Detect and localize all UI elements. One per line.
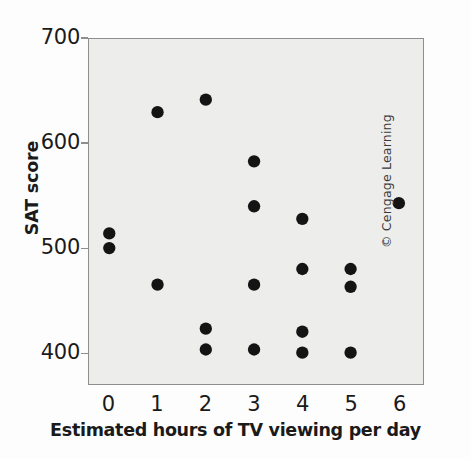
- data-point: [344, 346, 356, 358]
- data-point: [296, 326, 308, 338]
- data-points-layer: [89, 39, 423, 384]
- x-axis-tick-2: 2: [191, 394, 221, 415]
- y-axis-tick-mark: [81, 353, 88, 355]
- x-axis-tick-5: 5: [336, 394, 366, 415]
- data-point: [296, 213, 308, 225]
- data-point: [248, 279, 260, 291]
- data-point: [103, 242, 115, 254]
- x-axis-tick-0: 0: [93, 394, 123, 415]
- data-point: [151, 106, 163, 118]
- data-point: [248, 200, 260, 212]
- x-axis-tick-6: 6: [385, 394, 415, 415]
- x-axis-tick-1: 1: [142, 394, 172, 415]
- copyright-credit: © Cengage Learning: [379, 98, 394, 248]
- data-point: [103, 227, 115, 239]
- x-axis-tick-4: 4: [288, 394, 318, 415]
- y-axis-tick-mark: [81, 37, 88, 39]
- y-axis-tick-700: 700: [16, 27, 80, 48]
- y-axis-tick-mark: [81, 142, 88, 144]
- data-point: [200, 93, 212, 105]
- data-point: [248, 155, 260, 167]
- x-axis-tick-3: 3: [239, 394, 269, 415]
- plot-panel: [88, 38, 424, 385]
- data-point: [296, 263, 308, 275]
- y-axis-title: SAT score: [22, 118, 42, 258]
- data-point: [200, 322, 212, 334]
- data-point: [248, 343, 260, 355]
- scatter-plot-figure: 700600500400 SAT score 0123456 Estimated…: [0, 0, 471, 459]
- data-point: [200, 343, 212, 355]
- data-point: [151, 279, 163, 291]
- data-point: [393, 197, 405, 209]
- data-point: [296, 346, 308, 358]
- y-axis-tick-400: 400: [16, 342, 80, 363]
- x-axis-title: Estimated hours of TV viewing per day: [0, 420, 471, 440]
- data-point: [344, 281, 356, 293]
- data-point: [344, 263, 356, 275]
- y-axis-tick-mark: [81, 248, 88, 250]
